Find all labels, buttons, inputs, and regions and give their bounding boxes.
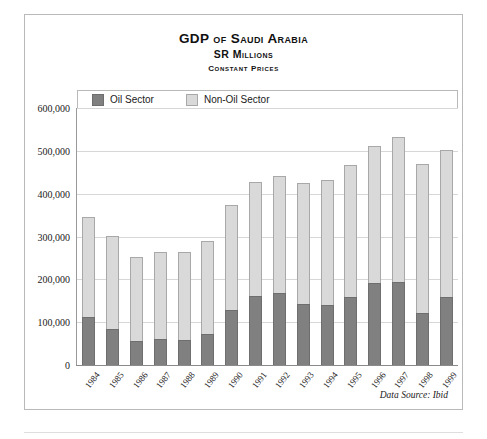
legend-item-non-oil-sector: Non-Oil Sector [186,94,270,106]
bar-segment-non-oil [82,217,95,316]
y-axis-tick-label: 100,000 [38,317,71,328]
chart-subtitle: SR Millions [25,47,462,62]
x-axis-tick-label: 1989 [202,370,221,390]
bar-stack-1986 [130,257,143,365]
bar-segment-non-oil [249,182,262,296]
x-axis-tick-label: 1998 [416,370,435,390]
bar-segment-non-oil [201,241,214,334]
bar-segment-oil [249,296,262,365]
x-axis-tick-label: 1994 [321,370,340,390]
x-axis-tick-label: 1992 [273,370,292,390]
bar-stack-1987 [154,252,167,365]
bar-segment-oil [344,297,357,365]
bar-segment-oil [82,317,95,365]
bar-segment-oil [106,329,119,365]
bar-segment-oil [273,293,286,365]
y-axis-tick-label: 400,000 [38,188,71,199]
bar-segment-non-oil [178,252,191,340]
bar-segment-oil [178,340,191,365]
bar-stack-1989 [201,241,214,365]
legend-swatch-non-oil-icon [186,94,198,106]
x-axis-tick-label: 1999 [440,370,459,390]
bar-segment-non-oil [344,165,357,297]
bar-stack-1998 [416,164,429,365]
chart-subsubtitle: Constant Prices [25,62,462,75]
bar-stack-1991 [249,182,262,365]
x-axis-line [76,365,458,366]
x-axis-tick-label: 1993 [297,370,316,390]
chart-legend: Oil Sector Non-Oil Sector [77,90,458,109]
bar-stack-1984 [82,217,95,365]
x-axis-tick-label: 1995 [345,370,364,390]
bar-segment-non-oil [297,183,310,305]
y-axis-tick-label: 200,000 [38,274,71,285]
page-divider-rule [24,432,463,433]
bar-segment-non-oil [368,146,381,283]
bar-stack-1985 [106,236,119,365]
bar-segment-non-oil [440,150,453,297]
bar-series-container [77,108,458,365]
bar-segment-non-oil [416,164,429,313]
bar-stack-1996 [368,146,381,365]
bar-segment-oil [201,334,214,365]
bar-stack-1994 [321,180,334,365]
y-axis-tick-label: 300,000 [38,231,71,242]
bar-segment-non-oil [321,180,334,305]
bar-stack-1992 [273,176,286,365]
legend-swatch-oil-icon [92,94,104,106]
bar-segment-non-oil [392,137,405,282]
x-axis-tick-label: 1996 [369,370,388,390]
bar-stack-1990 [225,205,238,365]
bar-segment-oil [321,305,334,365]
legend-item-oil-sector: Oil Sector [92,94,154,106]
bar-segment-oil [392,282,405,365]
bar-segment-non-oil [106,236,119,329]
y-axis-tick-label: 0 [65,360,70,371]
bar-segment-oil [154,339,167,365]
x-axis-tick-label: 1991 [250,370,269,390]
bar-segment-non-oil [273,176,286,293]
x-axis-tick-label: 1985 [107,370,126,390]
x-axis-tick-label: 1988 [178,370,197,390]
legend-label-oil-sector: Oil Sector [110,94,154,105]
bar-stack-1988 [178,252,191,366]
bar-segment-non-oil [225,205,238,310]
bar-segment-oil [440,297,453,365]
x-axis-tick-label: 1986 [130,370,149,390]
bar-segment-oil [225,310,238,365]
x-axis-tick-label: 1984 [83,370,102,390]
bar-segment-oil [297,304,310,365]
bar-segment-oil [416,313,429,365]
bar-stack-1999 [440,150,453,365]
bar-segment-oil [368,283,381,365]
x-axis-tick-label: 1990 [226,370,245,390]
bar-stack-1995 [344,165,357,365]
y-axis-tick-label: 600,000 [38,103,71,114]
x-axis-tick-label: 1997 [392,370,411,390]
chart-title-block: GDP of Saudi Arabia SR Millions Constant… [25,31,462,75]
y-axis-tick-label: 500,000 [38,145,71,156]
data-source-note: Data Source: Ibid [380,390,448,400]
legend-label-non-oil-sector: Non-Oil Sector [204,94,270,105]
bar-segment-oil [130,341,143,365]
bar-stack-1997 [392,137,405,365]
chart-figure-frame: GDP of Saudi Arabia SR Millions Constant… [24,14,463,410]
bar-segment-non-oil [154,252,167,339]
chart-title: GDP of Saudi Arabia [25,31,462,47]
bar-stack-1993 [297,183,310,365]
plot-area: 600,000500,000400,000300,000200,000100,0… [77,108,458,365]
bar-segment-non-oil [130,257,143,341]
x-axis-tick-label: 1987 [154,370,173,390]
